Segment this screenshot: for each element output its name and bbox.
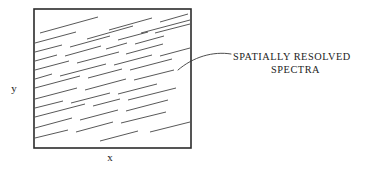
callout-label-line-1: SPATIALLY RESOLVED [233,51,351,62]
y-axis-label: y [11,82,17,94]
diagram-canvas: y x SPATIALLY RESOLVED SPECTRA [0,0,385,170]
figure-container: y x SPATIALLY RESOLVED SPECTRA [0,0,385,170]
callout-label-line-2: SPECTRA [271,64,320,75]
x-axis-label: x [107,151,113,163]
